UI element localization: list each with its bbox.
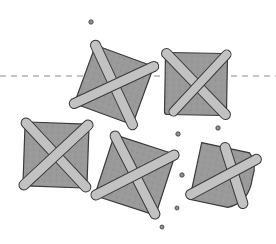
toast-piece-top-right [164, 52, 227, 115]
toast-piece-bottom-right-bitten [190, 143, 258, 212]
crumb [175, 206, 179, 210]
crumb [176, 132, 180, 136]
toast-illustration [0, 0, 276, 244]
toast-piece-bottom-middle [95, 135, 176, 216]
crumb [160, 225, 164, 229]
toast-piece-top-left [74, 45, 153, 124]
crumb [89, 20, 93, 24]
crumb [216, 126, 220, 130]
toast-piece-bottom-left [23, 122, 89, 188]
crumb [180, 173, 184, 177]
